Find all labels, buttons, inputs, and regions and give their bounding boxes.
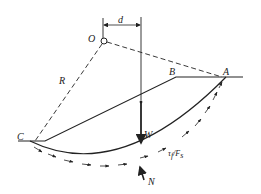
slope-stability-diagram: d O R B A C W N τf/F [0, 0, 261, 194]
radius-to-a [107, 42, 222, 77]
toe-label: C [17, 131, 24, 142]
normal-label: N [147, 176, 156, 187]
slope-surface [18, 77, 243, 141]
weight-force: W [140, 101, 154, 143]
lever-arm-label: d [118, 14, 124, 25]
shear-strength-label: τf/Fs [168, 149, 183, 160]
shear-stress-arrows [34, 82, 222, 166]
center-label: O [88, 33, 95, 44]
lever-arm-dimension: d [103, 14, 140, 38]
center-point [101, 38, 107, 44]
slip-surface-arc [30, 77, 226, 154]
radius-to-c [35, 44, 102, 141]
normal-force: N [140, 167, 156, 187]
top-point-label: A [222, 66, 230, 77]
crest-label: B [169, 66, 175, 77]
radius-label: R [58, 75, 65, 86]
